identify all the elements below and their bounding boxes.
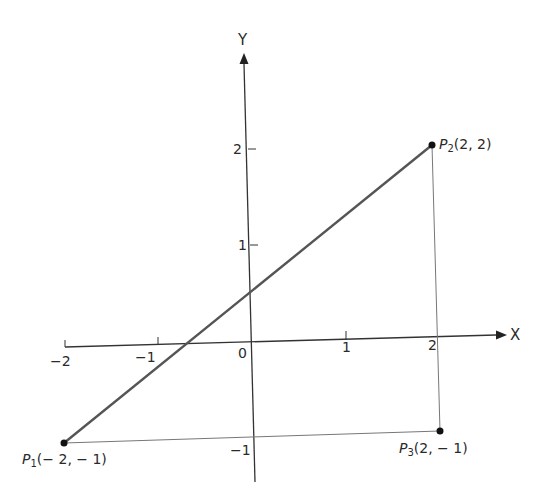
x-tick-label: 1 (342, 340, 351, 354)
x-tick-label: −2 (50, 354, 71, 368)
point-coords: (− 2, − 1) (37, 451, 107, 467)
point-p1-label: P1(− 2, − 1) (22, 452, 107, 469)
point-p3-label: P3(2, − 1) (399, 441, 468, 458)
y-tick-label: 1 (238, 238, 247, 252)
x-tick-label: −1 (135, 350, 156, 364)
y-axis-label: Y (238, 33, 247, 48)
x-tick-label: 2 (428, 338, 437, 352)
point-p3-icon (437, 428, 444, 435)
segment-p1-p2 (64, 145, 432, 443)
segment-p1-p3 (64, 431, 440, 443)
segment-p2-p3 (432, 145, 440, 431)
x-axis-label: X (510, 328, 520, 343)
y-axis (244, 64, 255, 482)
y-tick-label: −1 (230, 443, 251, 457)
y-axis-arrow-icon (240, 53, 249, 64)
point-p2-label: P2(2, 2) (439, 137, 491, 154)
point-coords: (2, 2) (454, 136, 492, 152)
coordinate-plane (0, 0, 546, 498)
x-tick-label: 0 (238, 346, 247, 360)
y-tick-label: 2 (233, 142, 242, 156)
point-p2-icon (429, 142, 436, 149)
point-coords: (2, − 1) (414, 440, 468, 456)
point-p1-icon (61, 440, 68, 447)
x-axis-arrow-icon (496, 331, 507, 340)
